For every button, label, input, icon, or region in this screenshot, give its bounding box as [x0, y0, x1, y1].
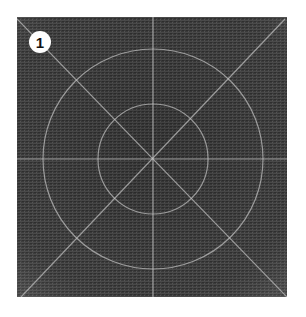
fabric-photo [17, 17, 287, 297]
step-number-badge: 1 [29, 31, 51, 53]
